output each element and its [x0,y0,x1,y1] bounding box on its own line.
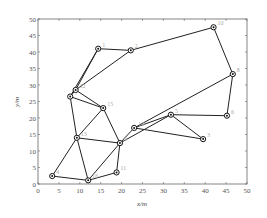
y-tick-label: 35 [29,65,37,73]
x-tick-label: 10 [76,187,84,195]
graph-node: 5 [168,108,178,118]
node-label: 13 [81,131,87,137]
graph-edge [134,128,203,139]
graph-node: 15 [101,101,114,111]
y-tick-label: 50 [29,16,37,24]
x-tick-label: 15 [97,187,105,195]
y-tick-label: 0 [33,181,37,189]
node-label: 9 [124,136,127,142]
y-tick-label: 10 [29,148,37,156]
x-tick-label: 50 [244,187,252,195]
x-tick-label: 0 [36,187,40,195]
node-label: 15 [107,101,113,107]
node-label: 4 [56,169,59,175]
graph-edge [76,90,104,108]
node-label: 8 [237,67,240,73]
x-axis-label: x/m [136,200,147,208]
node-label: 3 [207,132,210,138]
graph-edge [98,49,131,51]
y-axis-ticks: 05101520253035404550 [29,16,247,189]
graph-nodes: 12345678910111213141516 [50,20,240,183]
graph-edge [117,143,120,172]
graph-node: 2 [128,43,138,53]
x-tick-label: 30 [160,187,168,195]
node-label: 14 [138,121,144,127]
graph-edge [70,97,77,138]
x-tick-label: 25 [139,187,147,195]
plot-frame [38,19,247,184]
graph-edge [77,138,120,143]
y-tick-label: 40 [29,49,37,57]
node-label: 1 [102,42,105,48]
node-label: 2 [135,43,138,49]
node-label: 10 [218,20,224,26]
network-chart: 05101520253035404550 0510152025303540455… [0,0,267,218]
y-tick-label: 5 [33,164,37,172]
graph-edge [103,108,120,143]
node-label: 5 [175,108,178,114]
graph-edge [171,115,203,139]
graph-edge [70,97,103,109]
graph-node: 8 [230,67,240,77]
node-label: 11 [121,165,127,171]
graph-node: 6 [224,109,234,119]
graph-node: 16 [86,173,99,183]
graph-node: 1 [96,42,106,52]
graph-node: 10 [211,20,224,30]
y-tick-label: 30 [29,82,37,90]
graph-edge [120,128,134,143]
y-axis-label: y/m [13,97,21,108]
x-tick-label: 35 [181,187,189,195]
node-label: 6 [231,109,234,115]
y-tick-label: 20 [29,115,37,123]
node-label: 12 [80,83,86,89]
node-label: 16 [92,173,98,179]
x-tick-label: 45 [223,187,231,195]
graph-edge [214,27,233,74]
y-tick-label: 15 [29,131,37,139]
graph-edges [52,27,233,180]
y-tick-label: 45 [29,32,37,40]
x-tick-label: 5 [57,187,61,195]
x-tick-label: 20 [118,187,126,195]
x-tick-label: 40 [202,187,210,195]
y-tick-label: 25 [29,98,37,106]
graph-edge [131,27,214,50]
graph-edge [120,115,171,143]
graph-edge [77,138,88,181]
graph-edge [171,115,227,116]
graph-node: 11 [114,165,126,175]
graph-node: 3 [201,132,211,142]
x-axis-ticks: 05101520253035404550 [36,19,251,195]
graph-edge [134,74,233,128]
graph-edge [52,176,88,180]
graph-node: 12 [73,83,86,93]
